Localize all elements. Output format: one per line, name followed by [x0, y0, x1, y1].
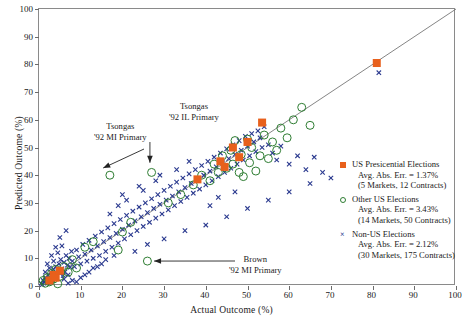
- data-point-circle: [81, 243, 89, 251]
- data-point-circle: [256, 152, 264, 160]
- data-point-cross: [131, 209, 135, 213]
- data-point-cross: [206, 159, 210, 163]
- data-point-circle: [273, 146, 281, 154]
- data-point-cross: [45, 262, 49, 266]
- data-point-cross: [145, 242, 149, 246]
- data-point-cross: [74, 280, 78, 284]
- data-point-cross: [104, 257, 108, 261]
- data-point-cross: [156, 192, 160, 196]
- legend-count-text: (30 Markets, 175 Contracts): [352, 250, 455, 261]
- data-point-cross: [154, 216, 158, 220]
- data-point-cross: [172, 203, 176, 207]
- data-point-circle: [106, 171, 114, 179]
- data-point-cross: [60, 244, 64, 248]
- x-tick-label: 80: [367, 291, 376, 300]
- data-point-cross: [162, 188, 166, 192]
- data-point-square: [244, 138, 252, 146]
- legend-label: Non-US Elections: [352, 229, 455, 240]
- data-point-cross: [224, 215, 228, 219]
- data-point-cross: [49, 253, 53, 257]
- data-point-cross: [183, 228, 187, 232]
- data-point-cross: [158, 173, 162, 177]
- data-point-cross: [154, 179, 158, 183]
- data-point-square: [56, 267, 64, 275]
- data-point-cross: [66, 281, 70, 285]
- data-point-cross: [216, 195, 220, 199]
- data-point-square: [235, 153, 243, 161]
- annotation-arrowhead: [103, 163, 111, 168]
- annotation-arrowhead: [154, 258, 161, 264]
- data-point-cross: [104, 249, 108, 253]
- data-point-cross: [149, 197, 153, 201]
- legend-entry[interactable]: Other US ElectionsAvg. Abs. Err. = 3.43%…: [339, 194, 455, 226]
- data-point-cross: [304, 167, 308, 171]
- legend-error-text: Avg. Abs. Err. = 1.37%: [352, 170, 455, 181]
- data-point-circle: [252, 167, 260, 175]
- data-point-cross: [256, 129, 260, 133]
- data-point-cross: [70, 259, 74, 263]
- data-point-cross: [116, 203, 120, 207]
- data-point-cross: [312, 155, 316, 159]
- data-point-square: [229, 144, 237, 152]
- data-point-circle: [246, 159, 254, 167]
- data-point-circle: [148, 168, 156, 176]
- y-axis-title: Predicted Outcome (%): [14, 78, 24, 248]
- data-point-circle: [306, 121, 314, 129]
- data-point-cross: [329, 176, 333, 180]
- data-point-cross: [208, 203, 212, 207]
- y-tick-label: 20: [0, 226, 33, 235]
- data-point-cross: [133, 249, 137, 253]
- data-point-cross: [124, 213, 128, 217]
- x-axis-title: Actual Outcome (%): [0, 305, 463, 315]
- data-point-cross: [95, 264, 99, 268]
- data-point-cross: [53, 245, 57, 249]
- annotation-line-1: Tsongas: [169, 101, 219, 112]
- data-point-cross: [174, 167, 178, 171]
- legend-error-text: Avg. Abs. Err. = 3.43%: [352, 204, 455, 215]
- x-tick-label: 100: [448, 291, 462, 300]
- cross-marker-icon: ×: [340, 231, 348, 239]
- tsongas-mi-annotation: Tsongas'92 MI Primary: [94, 121, 147, 142]
- data-point-cross: [162, 237, 166, 241]
- y-tick-label: 50: [0, 143, 33, 152]
- scatter-chart: Predicted Outcome (%) 010203040506070809…: [0, 0, 463, 325]
- tsongas-il-annotation: Tsongas'92 IL Primary: [169, 101, 219, 122]
- data-point-cross: [274, 158, 278, 162]
- data-point-cross: [135, 228, 139, 232]
- y-tick-label: 80: [0, 60, 33, 69]
- data-point-cross: [116, 241, 120, 245]
- data-point-cross: [245, 206, 249, 210]
- annotation-line-2: '92 MI Primary: [94, 132, 147, 143]
- data-point-square: [193, 175, 201, 183]
- data-point-cross: [99, 230, 103, 234]
- data-point-cross: [168, 184, 172, 188]
- data-point-cross: [187, 172, 191, 176]
- data-point-cross: [91, 266, 95, 270]
- x-tick-label: 60: [284, 291, 293, 300]
- y-tick-label: 0: [0, 282, 33, 291]
- data-point-cross: [179, 199, 183, 203]
- data-point-cross: [97, 253, 101, 257]
- annotation-line-2: '92 MI Primary: [229, 265, 282, 276]
- legend-label: Other US Elections: [352, 194, 455, 205]
- data-point-cross: [69, 249, 73, 253]
- data-point-cross: [377, 71, 381, 75]
- data-point-circle: [114, 246, 122, 254]
- x-tick-label: 0: [36, 291, 41, 300]
- x-tick-label: 70: [325, 291, 334, 300]
- data-point-cross: [143, 201, 147, 205]
- data-point-cross: [160, 212, 164, 216]
- data-point-cross: [320, 170, 324, 174]
- circle-marker-icon: [340, 197, 346, 203]
- data-point-cross: [106, 226, 110, 230]
- data-point-cross: [99, 262, 103, 266]
- data-point-cross: [85, 259, 89, 263]
- legend-error-text: Avg. Abs. Err. = 2.12%: [352, 239, 455, 250]
- data-point-cross: [185, 195, 189, 199]
- legend-entry[interactable]: US Presicential ElectionsAvg. Abs. Err. …: [339, 159, 455, 191]
- legend-entry[interactable]: ×Non-US ElectionsAvg. Abs. Err. = 2.12%(…: [339, 229, 455, 261]
- data-point-cross: [204, 223, 208, 227]
- x-tick-label: 30: [159, 291, 168, 300]
- data-point-cross: [308, 181, 312, 185]
- data-point-cross: [295, 154, 299, 158]
